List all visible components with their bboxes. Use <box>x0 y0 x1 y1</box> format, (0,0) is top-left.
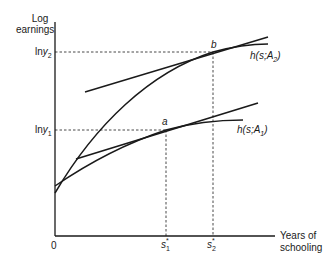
tick-lny2: lny2 <box>35 46 52 61</box>
point-a-label: a <box>162 116 168 127</box>
y-axis-label-line2: earnings <box>16 24 54 35</box>
y-axis-label-line1: Log <box>28 13 52 24</box>
point-b-label: b <box>211 39 217 50</box>
tick-s2-star: s*2 <box>207 239 212 250</box>
y-axis-label: Log <box>24 13 52 24</box>
tick-s1-star: s*1 <box>161 239 166 250</box>
curve-label-h-a1: h(s;A1) <box>237 124 268 139</box>
x-axis-label-line2: schooling <box>280 242 322 253</box>
origin-label: 0 <box>51 240 57 251</box>
x-axis-label-line1: Years of <box>280 230 316 241</box>
tangent-b <box>85 37 268 92</box>
tick-lny1: lny1 <box>35 124 52 139</box>
tangent-a <box>76 103 258 159</box>
curve-label-h-a2: h(s;A2) <box>250 50 281 65</box>
